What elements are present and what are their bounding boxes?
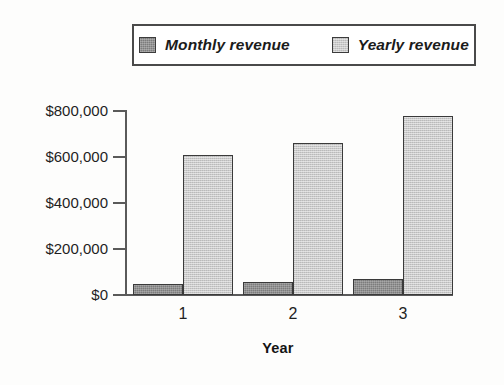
bar-monthly-revenue-year-3 [353,279,403,295]
y-tick-label-0: $0 [4,286,108,303]
y-tick-label-wrap-600000: $600,000 [0,148,108,166]
monthly-revenue-swatch-icon [139,37,156,53]
bar-yearly-revenue-year-3 [403,116,453,295]
bar-yearly-revenue-year-1 [183,155,233,295]
bar-group-year-1 [133,111,237,295]
x-tick-label-1: 1 [153,305,213,323]
bar-yearly-revenue-year-2 [293,143,343,295]
y-tick-label-800000: $800,000 [4,102,108,119]
bar-group-year-2 [243,111,347,295]
bar-chart: Monthly revenue Yearly revenue $800,000 … [0,0,504,385]
legend-label-yearly-revenue: Yearly revenue [358,36,469,54]
y-tick-label-200000: $200,000 [4,240,108,257]
bar-group-year-3 [353,111,457,295]
legend-item-yearly-revenue: Yearly revenue [332,36,469,54]
bar-monthly-revenue-year-1 [133,284,183,296]
y-tick-label-wrap-200000: $200,000 [0,240,108,258]
x-axis-title-wrap: Year [0,340,504,356]
y-tick-label-wrap-800000: $800,000 [0,102,108,120]
bar-monthly-revenue-year-2 [243,282,293,295]
y-tick-label-400000: $400,000 [4,194,108,211]
legend-item-monthly-revenue: Monthly revenue [139,36,290,54]
legend-label-monthly-revenue: Monthly revenue [165,36,290,54]
yearly-revenue-swatch-icon [332,37,349,53]
chart-legend: Monthly revenue Yearly revenue [132,24,476,66]
x-tick-label-2: 2 [263,305,323,323]
x-tick-label-3: 3 [373,305,433,323]
y-tick-label-wrap-400000: $400,000 [0,194,108,212]
y-tick-label-wrap-0: $0 [0,286,108,304]
y-tick-label-600000: $600,000 [4,148,108,165]
plot-area [125,111,453,295]
x-axis-title: Year [210,340,293,356]
